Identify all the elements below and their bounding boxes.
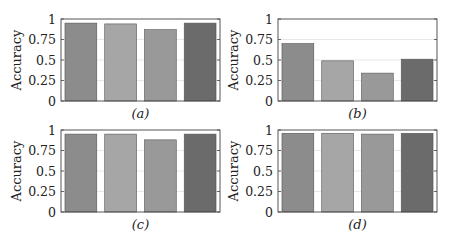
bar-3 — [361, 134, 393, 212]
bar-4 — [401, 133, 433, 212]
bar-1 — [282, 133, 314, 212]
y-tick-label: 0.25 — [245, 184, 273, 199]
y-tick-label: 0 — [265, 205, 273, 220]
y-tick-label: 0.75 — [245, 143, 273, 158]
bar-chart: 00.250.50.751Accuracy(d) — [0, 0, 451, 240]
panel-caption: (d) — [348, 217, 366, 232]
y-tick-label: 1 — [265, 123, 273, 138]
bar-2 — [322, 133, 354, 212]
chart-panel-d: 00.250.50.751Accuracy(d) — [0, 0, 451, 240]
y-tick-label: 0.5 — [253, 164, 273, 179]
y-axis-label: Accuracy — [226, 140, 241, 203]
